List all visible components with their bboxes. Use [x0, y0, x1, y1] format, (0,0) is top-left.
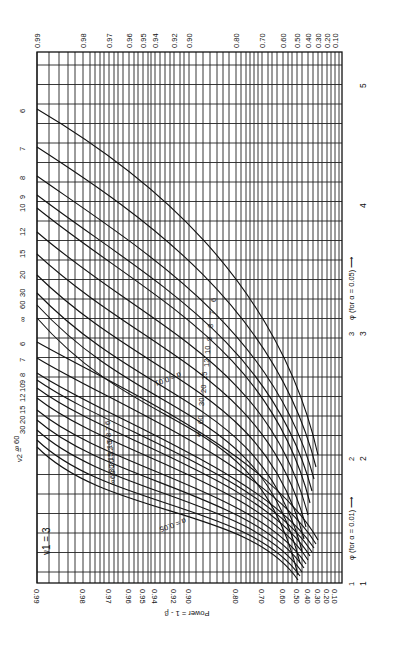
- power-tick-top: 0.70: [258, 33, 267, 48]
- curve-label-alpha-005: 30: [197, 398, 206, 406]
- curve-label-alpha-001: 7: [104, 427, 113, 431]
- curve-label-alpha-005: 9: [205, 337, 214, 341]
- phi-tick-alpha-005: 2: [358, 456, 368, 461]
- power-tick-top: 0.92: [170, 33, 179, 48]
- alpha-005-tag: α = 0.05: [158, 516, 187, 534]
- power-tick-top: 0.40: [304, 33, 313, 48]
- curve-label-alpha-001: 60: [108, 471, 117, 479]
- power-chart: 0.990.990.980.980.970.970.960.960.950.95…: [0, 0, 395, 649]
- nu2-label-alpha-005: 7: [18, 147, 27, 151]
- nu2-label-alpha-001: 6: [18, 342, 27, 346]
- power-tick-top: 0.50: [293, 33, 302, 48]
- curve-label-alpha-005: 10: [203, 346, 212, 354]
- nu2-label-alpha-005: 60: [18, 301, 27, 309]
- curve-label-alpha-005: 6: [209, 298, 218, 302]
- curve-label-alpha-005: 20: [199, 385, 208, 393]
- power-tick-bottom: 0.40: [303, 589, 312, 604]
- curve-label-alpha-001: ∞: [108, 480, 117, 485]
- nu2-equals-label: ν2 =: [15, 447, 24, 462]
- phi-axis-label-alpha-005: φ (for α = 0.05) ⟶: [347, 256, 356, 320]
- curve-label-alpha-005: 15: [200, 372, 209, 380]
- curve-label-alpha-005: 8: [206, 324, 215, 328]
- curve-alpha-001-nu2-10: [37, 388, 310, 556]
- nu2-label-alpha-005: 20: [18, 271, 27, 279]
- nu2-label-alpha-001: 20: [18, 416, 27, 424]
- nu2-label-alpha-001: 7: [18, 358, 27, 362]
- power-tick-top: 0.90: [185, 33, 194, 48]
- curve-label-alpha-005: ∞: [194, 432, 203, 437]
- nu2-label-alpha-005: 10: [18, 204, 27, 212]
- nu2-label-alpha-005: 12: [18, 228, 27, 236]
- power-tick-top: 0.80: [232, 33, 241, 48]
- curve-alpha-005-nu2-7: [37, 147, 316, 467]
- nu2-label-alpha-005: 6: [18, 109, 27, 113]
- power-tick-bottom: 0.95: [138, 589, 147, 604]
- power-tick-bottom: 0.70: [257, 589, 266, 604]
- alpha-001-tag: α = 0.01: [153, 370, 182, 388]
- nu2-label-alpha-005: 8: [18, 176, 27, 180]
- nu2-label-alpha-001: 60: [12, 436, 21, 444]
- curve-label-alpha-005: 60: [196, 416, 205, 424]
- nu1-label: ν1 = 3: [41, 527, 52, 555]
- power-tick-bottom: 0.50: [292, 589, 301, 604]
- nu2-label-alpha-001: 30: [18, 426, 27, 434]
- curve-alpha-005-nu2-6: [37, 109, 318, 455]
- power-tick-bottom: 0.20: [322, 589, 331, 604]
- curve-label-alpha-005: 12: [202, 359, 211, 367]
- power-tick-bottom: 0.94: [150, 589, 159, 604]
- power-tick-bottom: 0.99: [32, 589, 41, 604]
- power-tick-top: 0.99: [33, 33, 42, 48]
- power-curves: [37, 109, 318, 580]
- power-tick-top: 0.94: [151, 33, 160, 48]
- phi-axis-label-alpha-001: φ (for α = 0.01) ⟶: [347, 496, 356, 560]
- curve-label-alpha-001: 8: [104, 433, 113, 437]
- power-tick-bottom: 0.10: [330, 589, 339, 604]
- power-tick-bottom: 0.97: [104, 589, 113, 604]
- curve-alpha-001-nu2-12: [37, 398, 308, 560]
- power-tick-top: 0.60: [279, 33, 288, 48]
- curve-alpha-001-nu2-60: [37, 440, 300, 576]
- power-tick-bottom: 0.60: [278, 589, 287, 604]
- power-tick-bottom: 0.98: [78, 589, 87, 604]
- nu2-label-alpha-001: 12: [18, 394, 27, 402]
- chart-grid: [37, 52, 342, 583]
- power-tick-bottom: 0.30: [313, 589, 322, 604]
- nu2-label-alpha-005: 30: [18, 289, 27, 297]
- phi-tick-alpha-005: 4: [358, 203, 368, 208]
- power-tick-bottom: 0.80: [231, 589, 240, 604]
- phi-tick-alpha-005: 3: [358, 331, 368, 336]
- nu2-label-alpha-001: 9: [18, 380, 27, 384]
- phi-tick-alpha-001: 3: [347, 332, 356, 336]
- power-tick-top: 0.98: [79, 33, 88, 48]
- curve-label-alpha-001: 6: [103, 421, 112, 425]
- power-axis-label: Power = 1 - β: [164, 609, 210, 618]
- power-tick-top: 0.97: [105, 33, 114, 48]
- phi-tick-alpha-005: 1: [358, 581, 368, 586]
- phi-tick-alpha-005: 5: [358, 83, 368, 88]
- nu2-label-alpha-005: ∞: [18, 317, 27, 322]
- nu2-label-alpha-001: 10: [18, 384, 27, 392]
- phi-tick-alpha-001: 2: [347, 457, 356, 461]
- curve-alpha-001-nu2-7: [37, 358, 316, 544]
- power-tick-bottom: 0.96: [124, 589, 133, 604]
- nu2-label-alpha-005: 9: [18, 195, 27, 199]
- power-tick-bottom: 0.90: [184, 589, 193, 604]
- power-tick-top: 0.10: [331, 33, 340, 48]
- phi-tick-alpha-001: 1: [347, 582, 356, 586]
- power-tick-bottom: 0.92: [169, 589, 178, 604]
- power-tick-top: 0.96: [125, 33, 134, 48]
- curve-label-alpha-005: 7: [208, 311, 217, 315]
- axis-labels: 0.990.990.980.980.970.970.960.960.950.95…: [12, 33, 368, 618]
- power-tick-top: 0.95: [139, 33, 148, 48]
- nu2-label-alpha-001: 15: [18, 406, 27, 414]
- nu2-label-alpha-001: 8: [18, 373, 27, 377]
- nu2-label-alpha-005: 15: [18, 250, 27, 258]
- power-tick-top: 0.30: [314, 33, 323, 48]
